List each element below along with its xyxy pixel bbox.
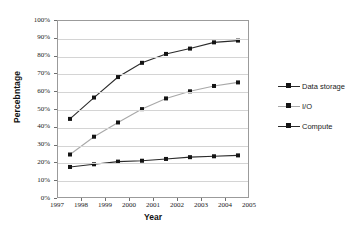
data-point-marker — [212, 40, 216, 44]
x-tick-mark — [105, 198, 106, 201]
gridline — [58, 181, 248, 182]
y-tick-label: 60% — [2, 88, 50, 95]
data-point-marker — [92, 96, 96, 100]
gridline — [58, 163, 248, 164]
x-tick-mark — [129, 198, 130, 201]
series-line — [70, 41, 238, 119]
data-point-marker — [236, 153, 240, 157]
y-tick-mark — [54, 198, 57, 199]
legend-swatch-icon — [278, 101, 300, 111]
gridline — [58, 57, 248, 58]
x-tick-mark — [177, 198, 178, 201]
x-tick-label: 2005 — [232, 201, 266, 209]
data-point-marker — [68, 165, 72, 169]
data-point-marker — [116, 75, 120, 79]
y-tick-label: 30% — [2, 141, 50, 148]
gridline — [58, 110, 248, 111]
chart-legend: Data storageI/OCompute — [278, 76, 363, 136]
x-tick-mark — [201, 198, 202, 201]
gridline — [58, 128, 248, 129]
data-point-marker — [212, 154, 216, 158]
legend-swatch-icon — [278, 81, 300, 91]
data-point-marker — [68, 117, 72, 121]
x-tick-mark — [225, 198, 226, 201]
legend-label: Compute — [300, 122, 332, 131]
line-chart-figure: Percebntage 0%10%20%30%40%50%60%70%80%90… — [0, 0, 363, 234]
y-tick-label: 90% — [2, 34, 50, 41]
data-point-marker — [188, 155, 192, 159]
y-tick-label: 40% — [2, 123, 50, 130]
legend-entry[interactable]: I/O — [278, 96, 363, 116]
plot-area — [57, 20, 249, 198]
y-axis-tick-labels: 0%10%20%30%40%50%60%70%80%90%100% — [0, 0, 55, 234]
data-point-marker — [116, 120, 120, 124]
y-tick-label: 70% — [2, 70, 50, 77]
data-point-marker — [164, 96, 168, 100]
data-point-marker — [68, 153, 72, 157]
legend-label: I/O — [300, 102, 312, 111]
data-point-marker — [92, 135, 96, 139]
legend-entry[interactable]: Data storage — [278, 76, 363, 96]
y-tick-label: 50% — [2, 106, 50, 113]
y-tick-label: 10% — [2, 177, 50, 184]
x-axis-title: Year — [57, 212, 249, 222]
legend-label: Data storage — [300, 82, 345, 91]
gridline — [58, 39, 248, 40]
series-line — [70, 82, 238, 154]
data-point-marker — [212, 84, 216, 88]
legend-entry[interactable]: Compute — [278, 116, 363, 136]
legend-swatch-icon — [278, 121, 300, 131]
x-tick-mark — [81, 198, 82, 201]
y-tick-label: 80% — [2, 52, 50, 59]
data-point-marker — [140, 61, 144, 65]
gridline — [58, 146, 248, 147]
data-point-marker — [188, 47, 192, 51]
y-tick-label: 20% — [2, 159, 50, 166]
data-point-marker — [164, 52, 168, 56]
data-point-marker — [164, 157, 168, 161]
y-tick-label: 100% — [2, 17, 50, 24]
data-point-marker — [236, 80, 240, 84]
gridline — [58, 74, 248, 75]
gridline — [58, 92, 248, 93]
x-tick-mark — [153, 198, 154, 201]
data-point-marker — [140, 159, 144, 163]
